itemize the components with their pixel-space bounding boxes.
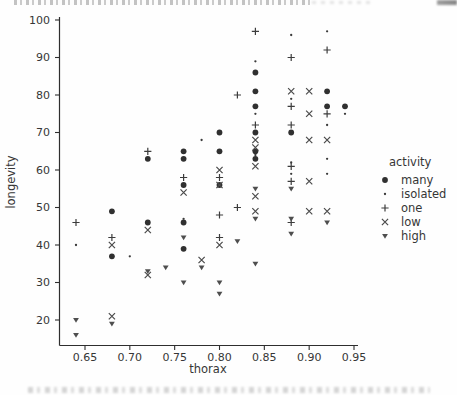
filled-circle-marker: [382, 177, 388, 183]
data-point: [129, 255, 131, 257]
data-point: [181, 281, 187, 286]
x-axis-label: thorax: [189, 362, 227, 376]
data-point: [288, 88, 294, 94]
legend-label-low: low: [401, 215, 421, 229]
data-point: [288, 54, 295, 61]
data-point: [181, 220, 187, 226]
data-point: [254, 113, 256, 115]
longevity-vs-thorax-scatter-plot: 0.650.700.750.800.850.900.95203040506070…: [0, 0, 457, 387]
data-point: [109, 242, 115, 248]
small-dot-icon: [384, 193, 386, 195]
y-tick-label: 20: [36, 314, 50, 327]
y-axis-label: longevity: [4, 155, 18, 208]
legend-entry-one: one: [381, 201, 422, 215]
data-point: [199, 257, 205, 263]
series-isolated: [75, 30, 346, 257]
legend-label-many: many: [401, 173, 434, 187]
tick-labels: 0.650.700.750.800.850.900.95203040506070…: [29, 14, 366, 364]
x-tick-label: 0.90: [297, 351, 322, 364]
data-point: [326, 30, 328, 32]
triangle-down-marker: [382, 234, 388, 239]
data-point: [108, 234, 115, 241]
data-point: [181, 236, 187, 241]
legend-entry-low: low: [382, 215, 421, 229]
data-point: [326, 124, 328, 126]
data-point: [306, 88, 312, 94]
legend-label-isolated: isolated: [401, 187, 446, 201]
data-point: [145, 227, 151, 233]
x-tick-label: 0.65: [73, 351, 98, 364]
data-point: [144, 148, 151, 155]
data-point: [306, 178, 312, 184]
data-point: [290, 34, 292, 36]
data-point: [181, 246, 187, 252]
data-point: [290, 98, 292, 100]
data-point: [324, 221, 330, 226]
data-point: [306, 111, 312, 117]
x-tick-label: 0.75: [162, 351, 187, 364]
data-point: [306, 137, 312, 143]
data-point: [75, 244, 77, 246]
x-tick-label: 0.70: [118, 351, 143, 364]
data-point: [217, 281, 223, 286]
data-points: [72, 28, 348, 338]
axes: [55, 17, 358, 350]
legend-entry-many: many: [382, 173, 433, 187]
data-point: [217, 292, 223, 297]
data-point: [181, 189, 187, 195]
data-point: [109, 253, 115, 259]
scatter-plot-figure: 0.650.700.750.800.850.900.95203040506070…: [0, 0, 457, 391]
series-many: [109, 70, 348, 260]
data-point: [252, 28, 259, 35]
filled-circle-icon: [382, 177, 388, 183]
data-point: [253, 156, 259, 162]
data-point: [324, 110, 331, 117]
data-point: [288, 232, 294, 237]
data-point: [288, 163, 295, 170]
data-point: [109, 322, 115, 327]
data-point: [216, 174, 223, 181]
legend-entry-high: high: [382, 229, 426, 243]
y-tick-label: 100: [29, 14, 50, 27]
data-point: [253, 217, 259, 222]
data-point: [344, 113, 346, 115]
data-point: [288, 217, 294, 222]
data-point: [342, 103, 348, 109]
triangle-down-icon: [382, 234, 388, 239]
x-tick-label: 0.95: [342, 351, 367, 364]
y-tick-label: 50: [36, 201, 50, 214]
y-tick-label: 60: [36, 164, 50, 177]
data-point: [290, 173, 292, 175]
data-point: [72, 219, 79, 226]
data-point: [235, 239, 241, 244]
cross-icon: [382, 219, 388, 225]
y-tick-label: 40: [36, 239, 50, 252]
data-point: [180, 174, 187, 181]
plus-icon: [381, 204, 388, 211]
data-point: [234, 204, 241, 211]
y-tick-label: 70: [36, 126, 50, 139]
data-point: [199, 266, 205, 271]
legend-label-high: high: [401, 229, 426, 243]
data-point: [324, 88, 330, 94]
data-point: [252, 137, 258, 143]
data-point: [73, 333, 79, 338]
data-point: [253, 187, 259, 192]
data-point: [288, 187, 294, 192]
legend-title: activity: [389, 155, 432, 169]
legend-label-one: one: [401, 201, 422, 215]
data-point: [324, 208, 330, 214]
plus-marker: [381, 204, 388, 211]
data-point: [200, 139, 202, 141]
legend: activity many isolated one low: [381, 155, 446, 243]
cross-marker: [382, 219, 388, 225]
data-point: [216, 242, 222, 248]
data-point: [216, 234, 223, 241]
data-point: [252, 208, 258, 214]
data-point: [252, 193, 258, 199]
y-tick-label: 90: [36, 51, 50, 64]
data-point: [253, 103, 259, 109]
data-point: [181, 156, 187, 162]
data-point: [288, 130, 294, 136]
data-point: [216, 167, 222, 173]
